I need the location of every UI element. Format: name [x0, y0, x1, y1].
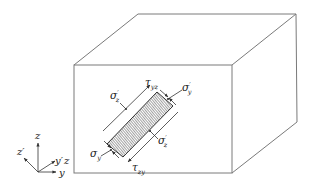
- axis-label-z: z: [34, 130, 41, 141]
- sigma-y-leader: [101, 150, 111, 156]
- y-prime-axis-arrow: [38, 161, 55, 172]
- coordinate-axes: [24, 143, 56, 172]
- block-edge-top-right: [232, 14, 296, 65]
- sigma-y-prime-leader: [168, 90, 182, 99]
- label-sigma-y-prime: σ′y: [182, 81, 192, 96]
- axis-label-z-prime: z′: [16, 146, 25, 157]
- label-sigma-z-prime-bottom: σ′z: [158, 134, 168, 149]
- label-tau-zy: τzy: [132, 161, 145, 176]
- label-sigma-y: σy: [90, 147, 101, 162]
- label-tau-yz: τyz: [145, 76, 158, 91]
- sigma-z-prime-bottom-leader: [150, 131, 158, 139]
- block-edge-bottom-right: [232, 122, 297, 173]
- z-prime-axis-arrow: [24, 158, 38, 172]
- axis-label-y-prime: y′: [54, 155, 64, 166]
- block-edge-top-left: [74, 14, 138, 65]
- axis-label-y: y: [58, 167, 65, 178]
- axis-label-z-small: z: [63, 155, 70, 166]
- label-sigma-z-prime-top: σ′z: [110, 89, 120, 104]
- stress-diagram: σ′z τyz σ′y σy τzy σ′z z z′ y′ z y: [0, 0, 315, 186]
- block-edge-back-right: [296, 14, 297, 122]
- block: [74, 14, 297, 173]
- diagram-canvas: σ′z τyz σ′y σy τzy σ′z z z′ y′ z y: [0, 0, 315, 186]
- sigma-z-prime-top-leader: [120, 103, 126, 109]
